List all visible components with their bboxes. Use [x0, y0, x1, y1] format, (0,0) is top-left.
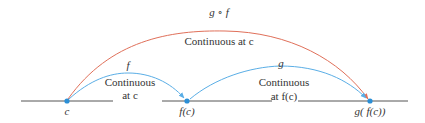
point-c: [64, 98, 69, 103]
composite-continuity-text: Continuous at c: [184, 35, 253, 47]
composite-function-name: g ∘ f: [209, 6, 230, 18]
point-f-of-c: [184, 98, 189, 103]
point-g-of-f-of-c: [367, 98, 372, 103]
f-continuity-line2: at c: [122, 89, 138, 101]
label-f-of-c: f(c): [179, 105, 195, 118]
composition-continuity-diagram: c f(c) g( f(c)) g ∘ f Continuous at c f …: [0, 0, 425, 123]
label-c: c: [65, 105, 70, 117]
f-function-name: f: [126, 59, 131, 71]
g-continuity-line2: at f(c): [271, 90, 298, 103]
g-function-name: g: [278, 57, 284, 69]
f-continuity-line1: Continuous: [105, 76, 156, 88]
g-continuity-line1: Continuous: [259, 76, 310, 88]
label-g-of-f-of-c: g( f(c)): [355, 105, 386, 118]
